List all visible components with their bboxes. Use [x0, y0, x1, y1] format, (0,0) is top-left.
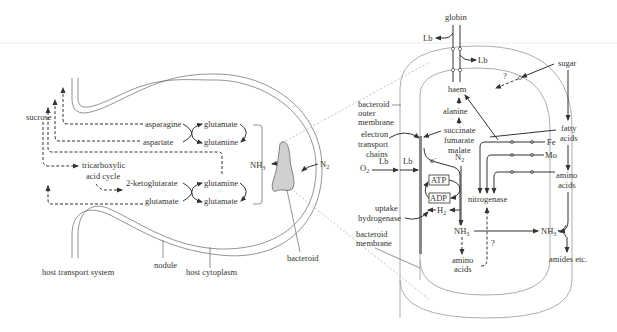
bacteroid-label: bacteroid — [287, 253, 319, 263]
glutamine-right2-label: glutamine — [204, 178, 238, 188]
nh3-label: NH3 — [250, 160, 265, 171]
fatty-label-1: fatty — [561, 123, 577, 133]
sugar-dashed-arrow — [496, 79, 518, 88]
exchange-arrow-2b — [183, 183, 202, 201]
fatty-label-2: acids — [560, 133, 577, 143]
haem-label: haem — [448, 84, 467, 94]
tca-to-ketoglutarate-path — [96, 184, 122, 190]
alanine-label: alanine — [443, 106, 468, 116]
amino-to-nitrogenase — [494, 172, 555, 193]
aspartate-path — [55, 100, 140, 141]
lb-right-arrow — [460, 55, 476, 60]
o2-label: O2 — [360, 163, 369, 174]
uptake-label-1: uptake — [375, 203, 398, 213]
etc-label-2: transport — [358, 139, 389, 149]
nitrogenase-label: nitrogenase — [468, 194, 507, 204]
adp-label: ADP — [430, 193, 447, 203]
nh3-inner-label: NH3 — [454, 226, 469, 237]
lb-top-arrow — [436, 33, 453, 38]
aspartate-label: aspartate — [143, 137, 173, 147]
lb-right-label: Lb — [478, 55, 487, 65]
nh3-outer-label: NH3 — [541, 226, 556, 237]
right-panel: globin Lb Lb haem alanine sugar ? fatty … — [356, 12, 587, 318]
bacteroid-membrane-label-2: membrane — [356, 238, 392, 248]
fumarate-label: fumarate — [444, 135, 474, 145]
glutamate-right1-label: glutamate — [204, 119, 238, 129]
amino-right-label-1: amino — [556, 170, 577, 180]
tca-label-2: acid cycle — [86, 171, 120, 181]
amides-label: amides etc. — [549, 254, 587, 264]
succinate-label: succinate — [444, 125, 476, 135]
atp-to-adp — [449, 180, 460, 198]
mo-to-nitrogenase — [487, 155, 544, 193]
electron-label: e− — [430, 155, 438, 165]
host-cytoplasm-label: host cytoplasm — [186, 267, 238, 277]
asparagine-path — [63, 88, 143, 124]
etc-pointer — [389, 133, 419, 138]
glutamate-right2-label: glutamate — [204, 196, 238, 206]
glutamate-left-label: glutamate — [145, 196, 179, 206]
lb-top-label: Lb — [423, 33, 432, 43]
uptake-label-2: hydrogenase — [358, 213, 401, 223]
sugar-question-label: ? — [503, 71, 507, 81]
h2-label: H2 — [437, 205, 446, 216]
lb-o2-label: Lb — [403, 156, 412, 166]
succinate-to-etc — [424, 131, 441, 137]
uptake-pointer — [405, 212, 428, 219]
etc-membrane-bar — [419, 136, 422, 254]
fe-to-nitrogenase — [480, 142, 545, 193]
question2-label: ? — [491, 238, 495, 248]
etc-label-1: electron — [361, 129, 389, 139]
nodule-diagram: sucrose tricarboxylic acid cycle asparag… — [0, 0, 617, 332]
amino-to-nh3-out — [560, 192, 568, 232]
zoom-guide-top — [282, 62, 430, 143]
amino-right-label-2: acids — [558, 180, 575, 190]
left-panel: sucrose tricarboxylic acid cycle asparag… — [26, 74, 329, 277]
nh3-arc-1 — [240, 124, 246, 142]
exchange-arrow-1b — [183, 124, 202, 142]
bacteroid-membrane-pointer — [375, 248, 420, 268]
globin-label: globin — [445, 12, 467, 22]
sucrose-label: sucrose — [26, 112, 52, 122]
channel-node — [458, 68, 461, 71]
mo-label: Mo — [545, 150, 557, 160]
outer-membrane-label-3: membrane — [358, 117, 394, 127]
lb-o1-label: Lb — [379, 156, 388, 166]
sugar-in-arrow — [522, 64, 554, 77]
asparagine-label: asparagine — [145, 119, 182, 129]
fe-label: Fe — [547, 137, 556, 147]
host-transport-label: host transport system — [42, 267, 115, 277]
tca-label-1: tricarboxylic — [82, 160, 126, 170]
bacteroid-shape — [272, 142, 294, 192]
ketoglutarate-label: 2-ketoglutarate — [126, 178, 178, 188]
sugar-label: sugar — [558, 58, 577, 68]
amino-to-nitrogenase-dashed — [481, 208, 487, 266]
atp-label: ATP — [431, 175, 446, 185]
amino-inner-label-2: acids — [454, 264, 471, 274]
channel-node — [451, 47, 454, 50]
fatty-to-succinate — [490, 130, 556, 137]
channel-node — [451, 68, 454, 71]
glutamine-right1-label: glutamine — [204, 137, 238, 147]
glutamate-return-path — [48, 186, 143, 204]
adp-to-atp — [425, 182, 429, 198]
sugar-port — [518, 76, 521, 79]
nh3-arc-2 — [240, 183, 246, 201]
n2-left-label: N2 — [320, 159, 329, 170]
n2-to-bacteroid-arrow — [302, 164, 318, 171]
nodule-label: nodule — [154, 260, 177, 270]
channel-node — [458, 47, 461, 50]
